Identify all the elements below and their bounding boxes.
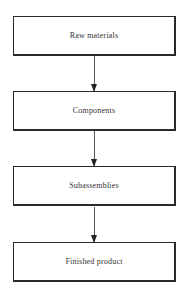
arrow-subassemblies-to-finished	[94, 207, 95, 242]
arrow-raw-to-components	[94, 56, 95, 91]
node-label: Raw materials	[70, 31, 119, 40]
arrow-components-to-subassemblies	[94, 131, 95, 166]
node-components: Components	[13, 91, 176, 131]
node-raw-materials: Raw materials	[13, 16, 176, 56]
node-label: Components	[73, 106, 115, 115]
node-label: Subassemblies	[69, 181, 119, 190]
node-finished-product: Finished product	[13, 242, 176, 282]
node-subassemblies: Subassemblies	[13, 166, 176, 206]
node-label: Finished product	[65, 257, 122, 266]
